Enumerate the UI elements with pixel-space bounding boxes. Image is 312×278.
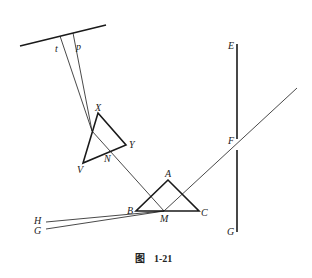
label-p: p (75, 41, 81, 52)
label-m: M (159, 213, 169, 224)
triangle-abc (136, 180, 199, 211)
label-v: V (77, 164, 85, 175)
label-c: C (201, 207, 208, 218)
label-b: B (127, 205, 133, 216)
top-line (20, 25, 106, 46)
line-to-m (92, 131, 164, 211)
caption-prefix: 图 (135, 253, 145, 264)
label-g-left: G (34, 225, 41, 236)
label-f: F (227, 135, 235, 146)
label-g-right: G (227, 226, 234, 237)
caption-number: 1-21 (154, 253, 172, 264)
label-x: X (94, 102, 102, 113)
label-e: E (227, 40, 234, 51)
label-n: N (103, 153, 112, 164)
optics-diagram: t p X Y V N A B C M H G E F G 图 1-21 (0, 0, 312, 278)
label-y: Y (129, 139, 136, 150)
line-m-f (164, 88, 297, 211)
label-t: t (55, 43, 58, 54)
label-a: A (164, 168, 172, 179)
